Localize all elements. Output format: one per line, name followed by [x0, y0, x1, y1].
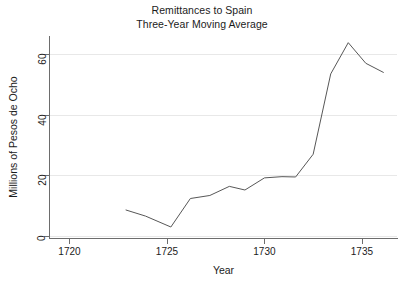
chart-figure: Remittances to Spain Three-Year Moving A…	[0, 0, 404, 287]
series-line-0	[126, 43, 383, 227]
series-layer	[0, 0, 404, 287]
